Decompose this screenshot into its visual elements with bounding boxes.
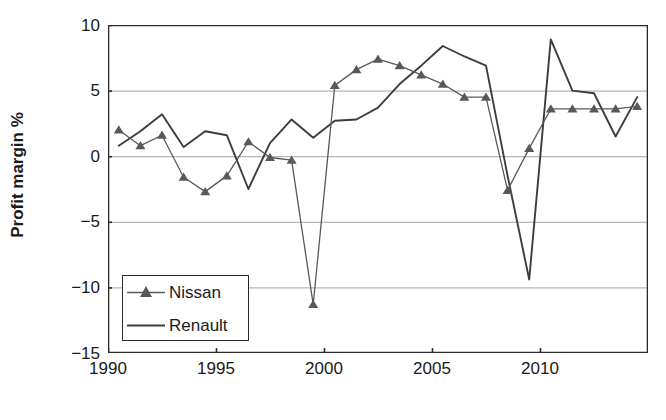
legend-entry-renault: Renault (123, 309, 250, 342)
y-tick-label: 5 (56, 82, 100, 99)
legend-box: Nissan Renault (122, 275, 249, 341)
x-tick-label: 1990 (73, 360, 143, 377)
legend-label-nissan: Nissan (169, 284, 221, 301)
chart-figure: Profit margin % 1050−5−10−15 19901995200… (0, 0, 666, 420)
y-axis-tick-labels: 1050−5−10−15 (48, 0, 100, 420)
renault-line-icon (123, 309, 169, 342)
x-tick-label: 1995 (181, 360, 251, 377)
y-axis-title: Profit margin % (0, 10, 36, 340)
x-tick-label: 2005 (397, 360, 467, 377)
y-tick-label: 10 (56, 17, 100, 34)
legend-label-renault: Renault (169, 317, 228, 334)
y-tick-label: −10 (56, 279, 100, 296)
y-tick-label: −5 (56, 213, 100, 230)
x-tick-label: 2010 (505, 360, 575, 377)
y-tick-label: 0 (56, 148, 100, 165)
series-line-renault (119, 39, 637, 279)
x-tick-label: 2000 (289, 360, 359, 377)
series-line-nissan (114, 55, 642, 309)
legend-entry-nissan: Nissan (123, 276, 250, 309)
nissan-marker-icon (123, 276, 169, 309)
